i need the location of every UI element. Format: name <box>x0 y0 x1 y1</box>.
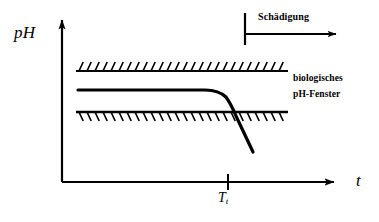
lower-boundary-line <box>76 112 288 121</box>
tick-label-base: T <box>218 190 226 205</box>
damage-annotation-label: Schädigung <box>258 12 309 22</box>
ph-time-diagram: pH t Tt Schädigung biologisches pH-Fenst… <box>0 0 379 222</box>
x-axis-tick-label-Tt: Tt <box>218 191 228 206</box>
tick-label-subscript: t <box>226 196 229 206</box>
upper-boundary-line <box>76 62 288 71</box>
diagram-canvas <box>0 0 379 222</box>
ph-window-label-line2: pH-Fenster <box>293 90 340 100</box>
lower-boundary-hatching <box>79 112 283 121</box>
y-axis-label: pH <box>14 24 35 41</box>
ph-window-label-line1: biologisches <box>293 74 343 84</box>
x-axis-label: t <box>356 172 361 189</box>
upper-boundary-hatching <box>79 62 283 71</box>
